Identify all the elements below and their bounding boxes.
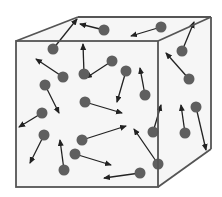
particle-dot (177, 46, 188, 57)
particle-dot (156, 22, 167, 33)
particle-dot (40, 80, 51, 91)
particle-dot (148, 127, 159, 138)
particle-dot (135, 168, 146, 179)
particle-dot (80, 97, 91, 108)
particle-dot (184, 74, 195, 85)
particle-dot (48, 44, 59, 55)
particle-dot (180, 128, 191, 139)
particle-dot (39, 130, 50, 141)
cube-fill (16, 17, 211, 187)
particle-dot (58, 72, 69, 83)
particle-dot (70, 149, 81, 160)
cube-faces (16, 17, 211, 187)
particle-dot (140, 90, 151, 101)
gas-particles-box-diagram: Gas particles moving randomly inside a c… (0, 0, 222, 197)
particle-dot (79, 69, 90, 80)
particle-dot (99, 25, 110, 36)
particle-dot (191, 102, 202, 113)
particle-dot (121, 66, 132, 77)
particle-dot (77, 135, 88, 146)
cube-diagram (0, 0, 222, 197)
particle-dot (59, 165, 70, 176)
particle-dot (107, 56, 118, 67)
particle-dot (37, 108, 48, 119)
